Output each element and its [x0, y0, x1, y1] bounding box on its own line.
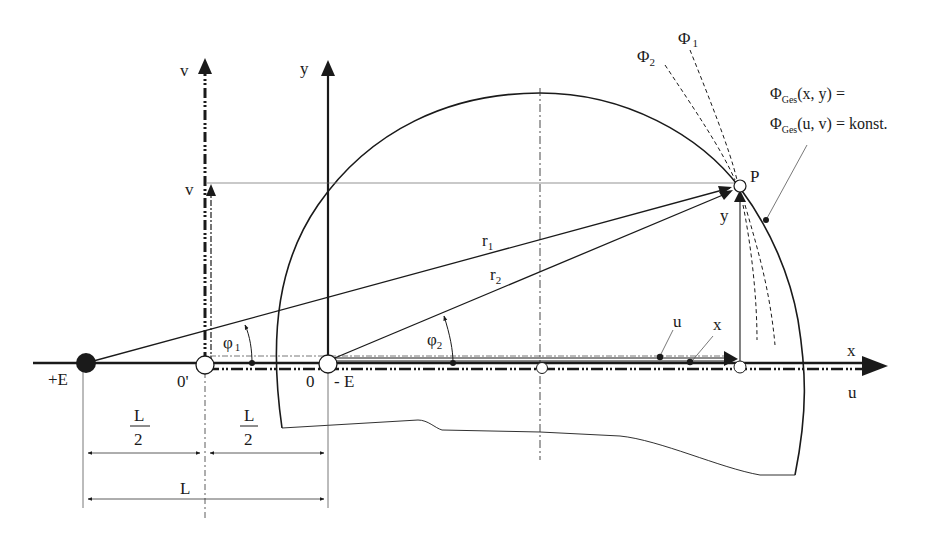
- r1-line: [86, 188, 730, 363]
- phi1-angle-label: φ1: [223, 333, 240, 353]
- y-axis-label: y: [300, 59, 309, 78]
- negative-charge-label: - E: [334, 372, 354, 391]
- point-p-label: P: [750, 167, 759, 186]
- positive-charge-point[interactable]: [76, 353, 96, 373]
- origin-prime-label: 0': [177, 372, 189, 391]
- phi2-angle-label: φ2: [427, 330, 442, 351]
- phi1-potential-label: Φ1: [678, 29, 698, 49]
- annotation-line2: ΦGes(u, v) = konst.: [770, 115, 888, 135]
- dim-half-left-denominator: 2: [134, 430, 143, 449]
- v-coord-label: v: [185, 180, 194, 199]
- x-coord-label: x: [713, 315, 722, 334]
- u-leader: [660, 330, 673, 356]
- point-p[interactable]: [734, 180, 746, 192]
- dim-full-label: L: [180, 479, 190, 498]
- v-axis-arrowhead: [198, 58, 212, 74]
- phi2-field-line-lower: [743, 205, 757, 340]
- region-bottom-edge: [282, 420, 795, 475]
- r2-line: [330, 192, 730, 360]
- phi2-vertex-dot: [450, 360, 456, 366]
- dim-half-right-denominator: 2: [244, 430, 253, 449]
- annotation-leader: [766, 145, 807, 220]
- annotation-leader-dot: [763, 217, 769, 223]
- x-leader: [692, 336, 713, 361]
- origin-prime-point[interactable]: [196, 356, 214, 374]
- dim-half-left-numerator: L: [134, 406, 144, 425]
- r1-label: r1: [482, 231, 493, 252]
- u-coord-label: u: [673, 312, 682, 331]
- origin-label: 0: [306, 372, 315, 391]
- dipole-coordinate-diagram: v y x u +E 0' 0 - E P v y u x r1 r2 φ1 φ…: [0, 0, 928, 547]
- annotation-line1: ΦGes(x, y) =: [770, 85, 845, 105]
- y-coord-label: y: [720, 206, 729, 225]
- x-axis-label: x: [847, 341, 856, 360]
- v-coord-arrowhead: [206, 184, 216, 196]
- y-axis-arrowhead: [321, 60, 335, 76]
- phi1-field-line-lower: [745, 205, 775, 345]
- u-axis-label: u: [848, 383, 857, 402]
- u-leader-dot: [657, 354, 663, 360]
- positive-charge-label: +E: [48, 370, 68, 389]
- phi2-field-line: [665, 65, 735, 180]
- r2-label: r2: [490, 265, 501, 286]
- phi2-potential-label: Φ2: [637, 47, 655, 68]
- dim-half-right-numerator: L: [244, 406, 254, 425]
- dimension-lines: [83, 370, 328, 508]
- phi1-arc: [245, 325, 252, 363]
- center-point[interactable]: [537, 363, 548, 374]
- x-leader-dot: [687, 359, 693, 365]
- p-foot-point[interactable]: [734, 361, 746, 373]
- phi1-vertex-dot: [249, 360, 255, 366]
- phi1-field-line: [690, 50, 737, 180]
- v-axis-label: v: [180, 61, 189, 80]
- v-axis: [198, 58, 216, 362]
- negative-charge-point[interactable]: [319, 355, 337, 373]
- y-axis: [321, 60, 335, 362]
- x-u-axis-arrowhead: [862, 356, 888, 376]
